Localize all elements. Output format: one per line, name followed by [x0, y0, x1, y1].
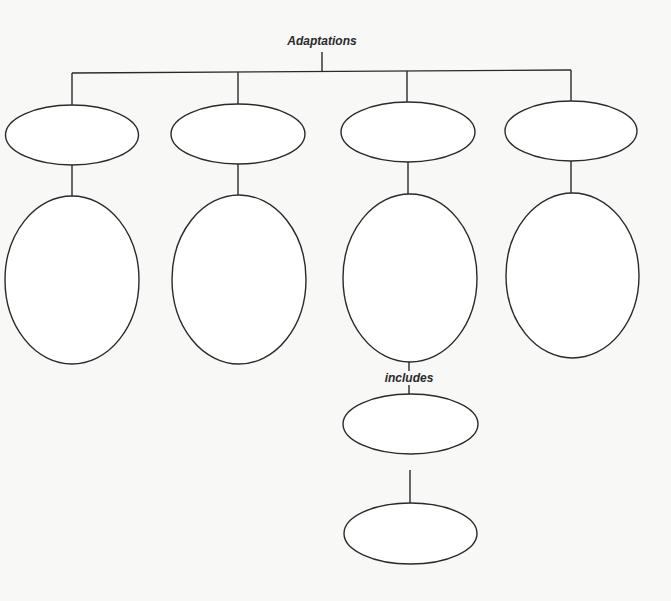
branch-2-bottom-node[interactable]	[172, 195, 306, 364]
branch-4-top-node[interactable]	[505, 101, 637, 161]
branch-1-bottom-node[interactable]	[5, 196, 139, 364]
branch-4-bottom-node[interactable]	[506, 193, 639, 358]
sub-node-2[interactable]	[344, 503, 477, 564]
branch-3-top-node[interactable]	[341, 102, 475, 162]
branch-2-top-node[interactable]	[171, 104, 305, 164]
root-label: Adaptations	[287, 34, 356, 48]
connector-lines	[0, 0, 671, 601]
includes-link-label: includes	[383, 371, 436, 385]
sub-node-1[interactable]	[343, 394, 478, 454]
branch-1-top-node[interactable]	[6, 105, 139, 165]
branch-3-bottom-node[interactable]	[343, 194, 477, 362]
